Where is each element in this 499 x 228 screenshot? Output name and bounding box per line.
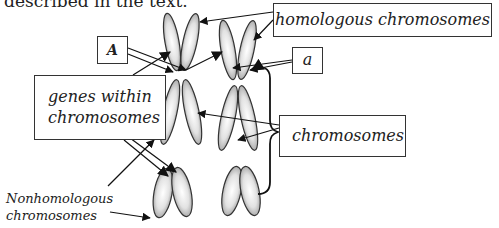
allele-a-label: a bbox=[303, 50, 313, 69]
allele-A-box: A bbox=[97, 36, 128, 64]
homologous-chromosomes-box: homologous chromosomes bbox=[273, 3, 492, 37]
chromosome-small-right bbox=[218, 165, 264, 218]
genes-label-line1: genes within bbox=[48, 86, 165, 107]
chromosomes-box: chromosomes bbox=[279, 115, 406, 157]
genes-within-chromosomes-box: genes within chromosomes bbox=[34, 75, 166, 140]
allele-a-box: a bbox=[292, 47, 323, 74]
allele-A-label: A bbox=[107, 42, 118, 58]
nonhomologous-line2: chromosomes bbox=[6, 207, 113, 224]
nonhomologous-line1: Nonhomologous bbox=[6, 190, 113, 207]
chromosomes-label: chromosomes bbox=[292, 126, 404, 145]
homologous-label: homologous chromosomes bbox=[275, 10, 490, 29]
nonhomologous-label: Nonhomologous chromosomes bbox=[6, 190, 113, 224]
genes-label-line2: chromosomes bbox=[48, 107, 165, 128]
arrows-homologous bbox=[200, 12, 273, 40]
arrows-nonhomologous bbox=[108, 140, 154, 218]
chromosome-small-left bbox=[150, 166, 196, 220]
arrows-chromosomes bbox=[198, 113, 279, 140]
